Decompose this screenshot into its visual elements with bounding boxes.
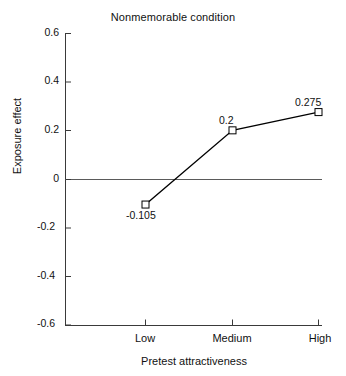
y-tick-label-2: 0.2 [25,123,59,135]
data-label-low: -0.105 [126,209,156,221]
x-tick-label-medium: Medium [197,332,267,344]
x-tick-label-high: High [285,332,346,344]
chart-figure: Nonmemorable condition Exposure effect [0,0,346,376]
y-tick-marks [66,34,72,326]
y-tick-label-6: -0.6 [21,317,55,329]
y-tick-label-1: 0.4 [25,74,59,86]
data-label-high: 0.275 [295,96,321,108]
data-point-marker-medium [229,127,236,134]
x-tick-marks [146,320,319,326]
x-tick-label-low: Low [110,332,180,344]
data-point-marker-high [315,109,322,116]
y-tick-label-3: 0 [25,172,59,184]
x-axis-label: Pretest attractiveness [65,355,323,367]
y-tick-label-5: -0.4 [21,269,55,281]
data-label-medium: 0.2 [219,114,234,126]
data-point-marker-low [142,201,149,208]
y-tick-label-0: 0.6 [25,26,59,38]
y-tick-label-4: -0.2 [21,220,55,232]
